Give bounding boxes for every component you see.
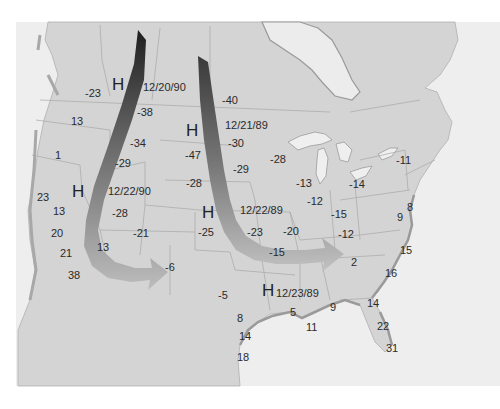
temp-label: 1: [55, 150, 61, 161]
temp-label: -20: [283, 226, 299, 237]
temp-label: -15: [269, 247, 285, 258]
temp-label: -28: [112, 208, 128, 219]
temp-label: -14: [349, 179, 365, 190]
high-pressure-date: 12/20/90: [143, 82, 186, 93]
high-pressure-symbol: H: [112, 76, 124, 93]
temp-label: 13: [97, 242, 109, 253]
temp-label: -28: [186, 178, 202, 189]
temp-label: -25: [198, 227, 214, 238]
temp-label: 21: [60, 248, 72, 259]
temp-label: 2: [351, 257, 357, 268]
temp-label: -5: [218, 290, 228, 301]
high-pressure-symbol: H: [186, 122, 198, 139]
temp-label: -15: [331, 209, 347, 220]
temp-label: 38: [68, 270, 80, 281]
temp-label: -12: [307, 196, 323, 207]
temp-label: 5: [290, 307, 296, 318]
temp-label: 23: [37, 192, 49, 203]
temp-label: -29: [115, 158, 131, 169]
temp-label: 13: [71, 116, 83, 127]
temp-label: -23: [247, 227, 263, 238]
temp-label: -30: [228, 138, 244, 149]
high-pressure-symbol: H: [262, 282, 274, 299]
high-pressure-date: 12/22/90: [108, 186, 151, 197]
temp-label: 18: [237, 352, 249, 363]
high-pressure-date: 12/23/89: [276, 288, 319, 299]
temp-label: -12: [338, 229, 354, 240]
temp-label: -21: [133, 228, 149, 239]
temp-label: -13: [296, 178, 312, 189]
temp-label: -23: [85, 88, 101, 99]
high-pressure-symbol: H: [202, 204, 214, 221]
temp-label: 15: [400, 245, 412, 256]
temp-label: 9: [330, 302, 336, 313]
temp-label: 14: [239, 331, 251, 342]
temp-label: -28: [270, 154, 286, 165]
temp-label: 11: [306, 322, 317, 333]
temp-label: 9: [397, 212, 403, 223]
high-pressure-date: 12/21/89: [225, 120, 268, 131]
temp-label: -11: [396, 155, 411, 166]
temp-label: 31: [386, 343, 398, 354]
temp-label: -29: [233, 164, 249, 175]
temp-label: -6: [165, 262, 175, 273]
temp-label: -34: [130, 138, 146, 149]
high-pressure-date: 12/22/89: [240, 205, 283, 216]
temp-label: 20: [51, 228, 63, 239]
temp-label: 8: [237, 313, 243, 324]
temp-label: 14: [367, 298, 379, 309]
temp-label: 16: [385, 268, 397, 279]
temp-label: 22: [377, 321, 389, 332]
temp-label: 13: [53, 206, 65, 217]
high-pressure-symbol: H: [72, 183, 84, 200]
temp-label: -40: [222, 95, 238, 106]
temp-label: -47: [185, 150, 201, 161]
temp-label: -38: [137, 107, 153, 118]
temp-label: 8: [407, 202, 413, 213]
